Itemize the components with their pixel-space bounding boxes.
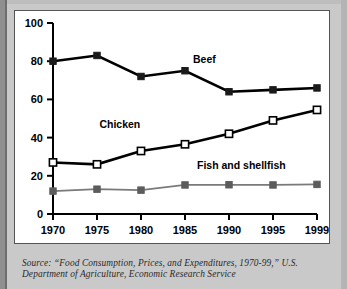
page-edge-top <box>0 0 347 4</box>
data-point-marker <box>137 147 144 154</box>
data-point-marker <box>181 141 188 148</box>
series-annotation-fish-and-shellfish: Fish and shellfish <box>197 159 286 171</box>
data-point-marker <box>182 68 188 74</box>
data-point-marker <box>314 85 320 91</box>
series-beef <box>50 52 320 95</box>
data-point-marker <box>313 106 320 113</box>
source-caption: Source: “Food Consumption, Prices, and E… <box>22 258 334 281</box>
data-point-marker <box>270 182 276 188</box>
data-point-marker <box>226 89 232 95</box>
x-axis-tick-label: 1975 <box>85 224 109 236</box>
data-point-marker <box>225 130 232 137</box>
data-point-marker <box>138 73 144 79</box>
x-axis-tick-label: 1980 <box>129 224 153 236</box>
x-axis-tick-label: 1970 <box>41 224 65 236</box>
data-point-marker <box>226 182 232 188</box>
data-point-marker <box>93 161 100 168</box>
data-point-marker <box>50 188 56 194</box>
y-axis-tick-label: 40 <box>31 132 43 144</box>
x-axis-tick-label: 1990 <box>217 224 241 236</box>
series-annotation-chicken: Chicken <box>99 118 140 130</box>
source-line-2: Department of Agriculture, Economic Rese… <box>22 269 334 280</box>
series-fish-and-shellfish <box>50 181 320 194</box>
x-axis-tick-label: 1999 <box>305 224 329 236</box>
y-axis-tick-label: 60 <box>31 93 43 105</box>
data-point-marker <box>138 187 144 193</box>
x-axis-tick-label: 1985 <box>173 224 197 236</box>
y-axis-tick-label: 0 <box>37 208 43 220</box>
data-point-marker <box>94 52 100 58</box>
source-line-1: Source: “Food Consumption, Prices, and E… <box>22 258 334 269</box>
data-point-marker <box>182 182 188 188</box>
data-point-marker <box>49 159 56 166</box>
figure-root: 0204060801001970197519801985199019951999… <box>0 0 347 289</box>
data-point-marker <box>50 58 56 64</box>
page-edge-right <box>341 0 347 289</box>
y-axis-tick-label: 100 <box>25 17 43 29</box>
y-axis-tick-label: 80 <box>31 55 43 67</box>
data-point-marker <box>94 186 100 192</box>
chart-panel: 0204060801001970197519801985199019951999… <box>14 10 330 244</box>
y-axis-tick-label: 20 <box>31 170 43 182</box>
data-point-marker <box>314 181 320 187</box>
page-edge-left-inner <box>5 0 7 289</box>
data-point-marker <box>269 117 276 124</box>
data-point-marker <box>270 87 276 93</box>
series-annotation-beef: Beef <box>193 53 216 65</box>
x-axis-tick-label: 1995 <box>261 224 285 236</box>
line-chart: 0204060801001970197519801985199019951999… <box>15 11 329 243</box>
